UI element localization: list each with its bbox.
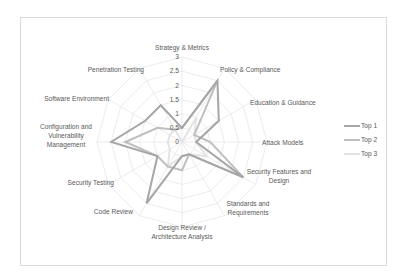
radial-tick-label: 2.5 [170,67,179,74]
legend-item-top-3[interactable]: Top 3 [344,150,377,158]
category-label: Education & Guidance [250,99,316,106]
legend: Top 1Top 2Top 3 [344,122,377,158]
legend-label: Top 1 [361,122,377,130]
legend-item-top-2[interactable]: Top 2 [344,136,377,144]
category-label: Configuration andVulnerabilityManagement [40,123,92,149]
radial-tick-label: 0.5 [170,124,179,131]
radial-tick-label: 1.5 [170,96,179,103]
radial-tick-label: 2 [175,82,179,89]
category-label: Penetration Testing [88,66,145,74]
category-label: Design Review /Architecture Analysis [151,224,213,241]
category-label: Software Environment [44,95,109,102]
radial-tick-label: 3 [175,53,179,60]
category-label: Policy & Compliance [220,66,281,74]
category-label: Attack Models [262,139,304,146]
legend-item-top-1[interactable]: Top 1 [344,122,377,130]
spoke [182,142,256,185]
radial-tick-label: 0 [175,138,179,145]
legend-label: Top 2 [361,136,377,144]
radial-axis-ticks: 00.511.522.53 [170,53,180,145]
category-label: Code Review [94,208,133,215]
radar-chart: 00.511.522.53 Strategy & MetricsPolicy &… [0,0,407,278]
category-label: Standards andRequirements [227,200,270,217]
category-label: Strategy & Metrics [155,44,210,52]
legend-label: Top 3 [361,150,377,158]
radial-tick-label: 1 [175,110,179,117]
category-label: Security Testing [68,179,115,187]
